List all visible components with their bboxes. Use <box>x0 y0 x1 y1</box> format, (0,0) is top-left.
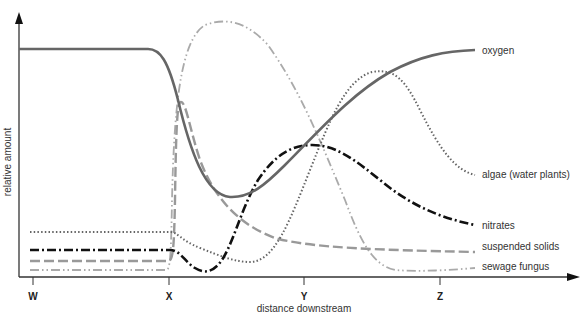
series-suspended-solids <box>30 102 475 261</box>
tick-label-w: W <box>28 291 38 302</box>
x-axis-title: distance downstream <box>257 303 352 314</box>
series-sewage-fungus <box>30 22 475 271</box>
x-axis-arrow-icon <box>567 273 580 281</box>
series-algae <box>30 71 475 262</box>
tick-label-z: Z <box>437 291 443 302</box>
series-nitrates <box>30 145 475 271</box>
tick-label-x: X <box>166 291 173 302</box>
label-algae: algae (water plants) <box>482 169 570 180</box>
label-oxygen: oxygen <box>482 45 514 56</box>
tick-label-y: Y <box>301 291 308 302</box>
label-suspended-solids: suspended solids <box>482 241 559 252</box>
y-axis-title: relative amount <box>2 128 13 197</box>
label-sewage-fungus: sewage fungus <box>482 261 549 272</box>
river-pollution-diagram: W X Y Z distance downstream relative amo… <box>0 0 580 315</box>
label-nitrates: nitrates <box>482 220 515 231</box>
y-axis-arrow-icon <box>15 12 23 24</box>
series-oxygen <box>19 49 475 197</box>
